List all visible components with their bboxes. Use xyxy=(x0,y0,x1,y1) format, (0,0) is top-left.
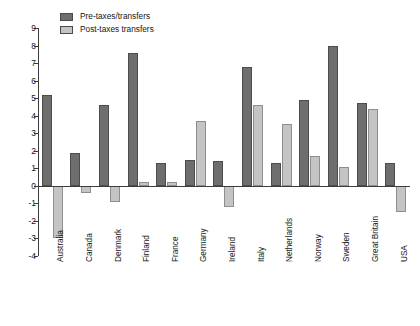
bar-pre-taxes xyxy=(213,161,223,186)
bar-pre-taxes xyxy=(185,160,195,186)
bar-pre-taxes xyxy=(299,100,309,186)
y-axis-tick-label: 3 xyxy=(31,129,36,138)
x-axis-label: Netherlands xyxy=(285,218,294,262)
bar-group xyxy=(210,28,239,256)
bar-pre-taxes xyxy=(385,163,395,186)
x-axis-label: Germany xyxy=(199,228,208,262)
bar-post-taxes xyxy=(368,109,378,186)
legend-swatch-pre-taxes-icon xyxy=(60,13,73,21)
bar-pre-taxes xyxy=(128,53,138,186)
bar-post-taxes xyxy=(396,186,406,212)
y-axis-tick-label: 5 xyxy=(31,94,36,103)
y-axis-tick-label: 0 xyxy=(31,181,36,190)
x-axis-label: Sweden xyxy=(342,232,351,262)
legend-label-pre-taxes: Pre-taxes/transfers xyxy=(80,12,150,21)
bar-post-taxes xyxy=(224,186,234,207)
bar-pre-taxes xyxy=(328,46,338,186)
bar-group xyxy=(238,28,267,256)
x-axis-label: USA xyxy=(400,245,409,262)
bar-pre-taxes xyxy=(42,95,52,186)
y-axis-tick-label: -1 xyxy=(29,199,36,208)
zero-baseline xyxy=(38,186,410,187)
bar-post-taxes xyxy=(253,105,263,186)
x-axis-label: Italy xyxy=(257,247,266,262)
bar-pre-taxes xyxy=(70,153,80,186)
x-axis-label: Denmark xyxy=(114,229,123,262)
bar-post-taxes xyxy=(81,186,91,193)
y-axis-tick-label: 8 xyxy=(31,41,36,50)
x-axis-label: France xyxy=(171,237,180,262)
bar-chart: Pre-taxes/transfers Post-taxes transfers… xyxy=(0,0,420,326)
x-axis-label: Great Britain xyxy=(371,216,380,262)
bar-group xyxy=(95,28,124,256)
bar-group xyxy=(181,28,210,256)
x-axis-label: Finland xyxy=(142,235,151,262)
y-axis-tick-label: 7 xyxy=(31,59,36,68)
bar-pre-taxes xyxy=(271,163,281,186)
bar-group xyxy=(381,28,410,256)
y-axis-tick-label: 4 xyxy=(31,111,36,120)
y-axis-tick-label: 2 xyxy=(31,146,36,155)
bar-post-taxes xyxy=(310,156,320,186)
bar-group xyxy=(296,28,325,256)
bar-pre-taxes xyxy=(357,103,367,185)
bar-group xyxy=(38,28,67,256)
bar-post-taxes xyxy=(282,124,292,185)
legend-entry-pre-taxes: Pre-taxes/transfers xyxy=(60,11,154,22)
bar-pre-taxes xyxy=(242,67,252,186)
y-axis-tick-label: 1 xyxy=(31,164,36,173)
plot-area: 9876543210-1-2-3-4 xyxy=(38,28,410,256)
bar-pre-taxes xyxy=(156,163,166,186)
bar-group xyxy=(124,28,153,256)
y-axis-tick-label: 9 xyxy=(31,24,36,33)
bar-group xyxy=(324,28,353,256)
y-axis-tick-label: -4 xyxy=(29,252,36,261)
x-axis-label: Ireland xyxy=(228,237,237,262)
bar-post-taxes xyxy=(339,167,349,186)
y-axis-tick-label: -3 xyxy=(29,234,36,243)
x-axis-label: Norway xyxy=(314,234,323,262)
bar-group xyxy=(152,28,181,256)
y-axis-tick-label: -2 xyxy=(29,216,36,225)
bar-group xyxy=(67,28,96,256)
bar-pre-taxes xyxy=(99,105,109,186)
bar-post-taxes xyxy=(196,121,206,186)
x-axis-label: Australia xyxy=(56,230,65,262)
y-axis-tick-label: 6 xyxy=(31,76,36,85)
bar-post-taxes xyxy=(110,186,120,202)
x-axis-label: Canada xyxy=(85,233,94,262)
